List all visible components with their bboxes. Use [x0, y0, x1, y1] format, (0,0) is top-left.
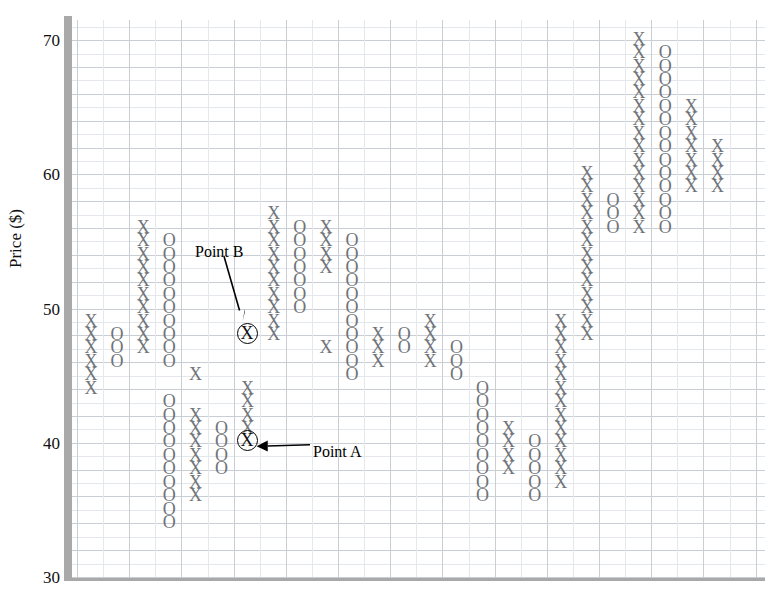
- point-a-arrow: [72, 20, 765, 577]
- y-axis-title: Price ($): [6, 209, 26, 268]
- y-axis-tick-60: 60: [14, 166, 60, 183]
- y-axis-tick-30: 30: [14, 569, 60, 586]
- point-and-figure-chart: Price ($) 3040506070 XXXXXXOOOXXXXXXXXXX…: [0, 0, 773, 616]
- plot-area: XXXXXXOOOXXXXXXXXXXOOOOOOOOOOOOOOOOOOOOX…: [72, 20, 765, 577]
- y-axis-tick-40: 40: [14, 435, 60, 452]
- y-axis-line: [64, 16, 72, 581]
- grid-line-horizontal: [72, 577, 765, 578]
- y-axis-tick-50: 50: [14, 301, 60, 318]
- y-axis-tick-70: 70: [14, 32, 60, 49]
